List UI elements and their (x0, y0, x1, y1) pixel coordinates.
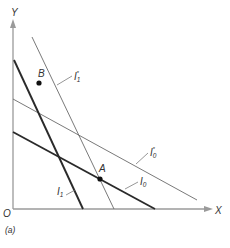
label-i1-star: I1* (74, 70, 81, 83)
x-axis-arrow-icon (204, 206, 213, 212)
leader-i0-star (136, 153, 148, 164)
line-i1-star (32, 37, 114, 209)
panel-label: (a) (5, 225, 16, 235)
leader-i1 (66, 190, 75, 195)
label-i0: I0 (140, 176, 147, 188)
point-b-label: B (38, 68, 45, 79)
leader-i0 (125, 182, 138, 189)
point-a-label: A (98, 163, 106, 174)
label-i0-star: I0* (150, 146, 157, 159)
y-axis-label: Y (11, 7, 19, 18)
line-i0-star (13, 99, 197, 200)
x-axis-label: X (214, 205, 222, 216)
origin-label: O (3, 208, 11, 219)
indifference-diagram: Y X O (a) I1* I0* I0 I1 B A (0, 0, 230, 248)
leader-i1-star (57, 76, 72, 85)
y-axis-arrow-icon (10, 19, 16, 28)
line-i0 (13, 132, 155, 209)
point-a (97, 176, 102, 181)
line-i1 (14, 60, 83, 209)
point-b (36, 80, 41, 85)
label-i1: I1 (57, 186, 64, 198)
